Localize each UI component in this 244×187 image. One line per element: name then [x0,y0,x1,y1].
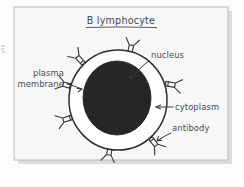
image-canvas: B lymphocyte [0,0,244,187]
b-lymphocyte-diagram: B lymphocyte [0,0,244,187]
label-plasma-membrane-line2: membrane [17,79,64,89]
margin-ink-mark [1,46,5,52]
page-title: B lymphocyte [87,15,155,26]
label-nucleus: nucleus [151,50,184,60]
nucleus-shape [83,61,151,135]
label-cytoplasm: cytoplasm [175,102,219,112]
label-antibody: antibody [172,123,210,133]
label-plasma-membrane-line1: plasma [33,68,64,78]
